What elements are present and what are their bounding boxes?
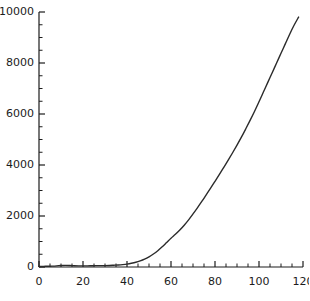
axes-group (39, 12, 303, 267)
x-tick-label: 60 (164, 275, 178, 288)
x-tick-label: 120 (293, 275, 310, 288)
chart-figure: 0200040006000800010000 020406080100120 (0, 0, 309, 301)
x-tick-label: 0 (36, 275, 43, 288)
line-chart: 0200040006000800010000 020406080100120 (0, 0, 309, 301)
y-tick-label: 6000 (6, 107, 34, 120)
y-axis-ticks (39, 12, 45, 267)
y-tick-label: 0 (27, 260, 34, 273)
x-tick-label: 20 (76, 275, 90, 288)
data-series-line (39, 17, 299, 266)
x-tick-label: 40 (120, 275, 134, 288)
y-tick-label: 10000 (0, 5, 34, 18)
x-tick-label: 100 (249, 275, 270, 288)
y-axis-tick-labels: 0200040006000800010000 (0, 5, 34, 273)
x-axis-tick-labels: 020406080100120 (36, 275, 310, 288)
y-tick-label: 8000 (6, 56, 34, 69)
y-tick-label: 2000 (6, 209, 34, 222)
y-tick-label: 4000 (6, 158, 34, 171)
x-tick-label: 80 (208, 275, 222, 288)
